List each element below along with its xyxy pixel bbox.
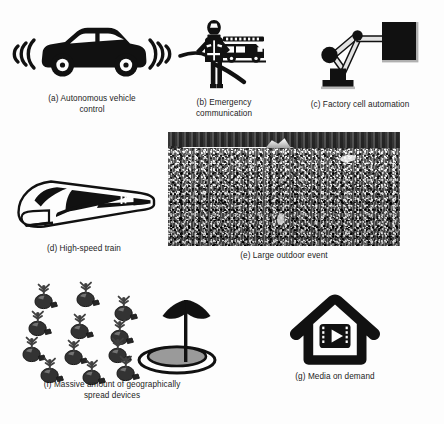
panel-a-caption-line2: control (79, 105, 104, 114)
panel-f-caption-line1: (f) Massive amount of geographically (44, 380, 181, 389)
house-with-media-player-icon (228, 292, 442, 366)
panel-g-media-on-demand: (g) Media on demand (228, 292, 442, 383)
panel-b-caption: (b) Emergency communication (168, 98, 280, 120)
panel-f-spread-devices: (f) Massive amount of geographically spr… (2, 280, 222, 402)
firefighter-with-fire-truck-icon (168, 14, 280, 94)
panel-e-large-outdoor-event: (e) Large outdoor event (166, 132, 402, 262)
panel-b-caption-line2: communication (196, 109, 252, 118)
panel-c-factory-cell-automation: (c) Factory cell automation (280, 14, 440, 111)
panel-b-caption-line1: (b) Emergency (197, 98, 252, 107)
figure-canvas: (a) Autonomous vehicle control (0, 0, 444, 424)
panel-b-emergency-communication: (b) Emergency communication (168, 14, 280, 120)
panel-d-high-speed-train: (d) High-speed train (4, 172, 164, 255)
antenna-mast (139, 300, 215, 373)
panel-c-caption: (c) Factory cell automation (280, 100, 440, 111)
panel-e-caption-line1: (e) Large outdoor event (240, 251, 327, 260)
panel-g-caption-line1: (g) Media on demand (295, 372, 374, 381)
crowd-photograph (166, 132, 402, 246)
car-with-signal-waves-icon (2, 14, 182, 88)
panel-d-caption-line1: (d) High-speed train (47, 244, 121, 253)
high-speed-train-icon (4, 172, 164, 238)
panel-f-caption: (f) Massive amount of geographically spr… (2, 380, 222, 402)
panel-e-caption: (e) Large outdoor event (166, 251, 402, 262)
panel-f-caption-line2: spread devices (84, 391, 140, 400)
robotic-arm-icon (280, 14, 440, 94)
crowd-photo-image (168, 132, 400, 246)
panel-a-autonomous-vehicle: (a) Autonomous vehicle control (2, 14, 182, 116)
panel-g-caption: (g) Media on demand (228, 372, 442, 383)
device-swarm-and-antenna-icon (2, 280, 222, 376)
panel-c-caption-line1: (c) Factory cell automation (311, 100, 410, 109)
panel-a-caption: (a) Autonomous vehicle control (2, 94, 182, 116)
panel-d-caption: (d) High-speed train (4, 244, 164, 255)
panel-a-caption-line1: (a) Autonomous vehicle (48, 94, 135, 103)
photo-crowd (168, 148, 400, 246)
